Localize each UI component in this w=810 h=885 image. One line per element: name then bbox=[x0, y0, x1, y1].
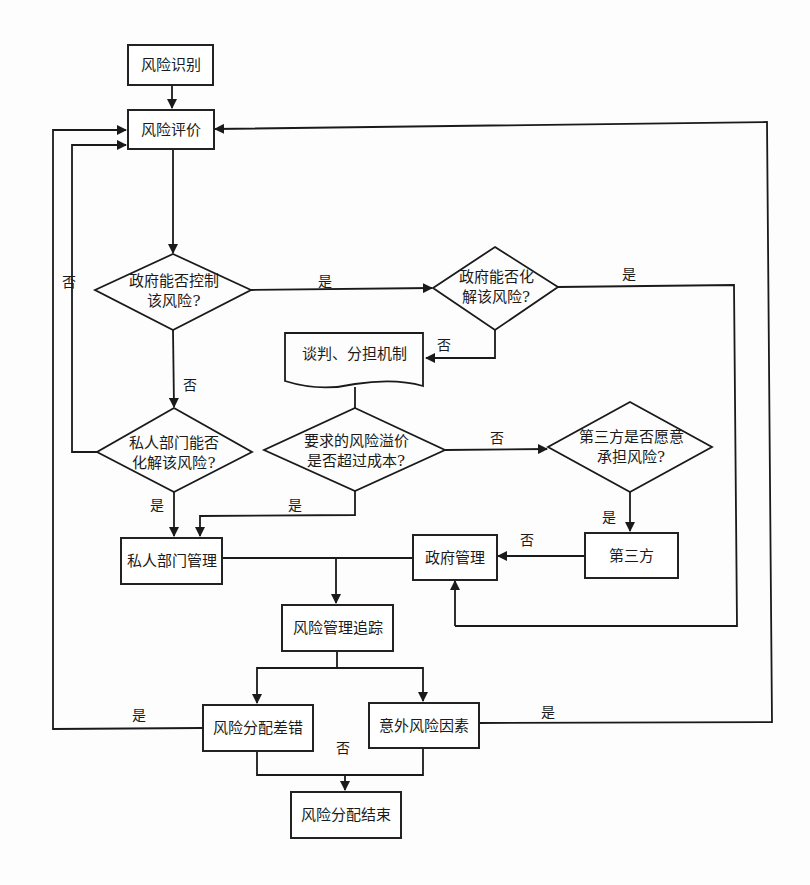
node-label: 风险评价 bbox=[141, 120, 201, 140]
node-label: 第三方 bbox=[609, 546, 654, 566]
edge-label-gov-control-no: 否 bbox=[183, 377, 197, 393]
node-risk-tracking: 风险管理追踪 bbox=[281, 604, 394, 652]
decision-label: 要求的风险溢价 是否超过成本? bbox=[304, 431, 409, 471]
doc-label: 谈判、分担机制 bbox=[302, 344, 407, 364]
node-gov-management: 政府管理 bbox=[412, 534, 498, 581]
decision-label: 政府能否控制 该风险? bbox=[129, 271, 219, 311]
node-private-management: 私人部门管理 bbox=[120, 537, 223, 585]
node-risk-identification: 风险识别 bbox=[127, 44, 214, 86]
edge-label-gov-control-yes: 是 bbox=[318, 273, 332, 289]
edge-label-gov-resolve-yes: 是 bbox=[622, 266, 636, 282]
risk-allocation-flowchart: 风险识别 风险评价 政府能否控制 该风险? 政府能否化 解该风险? 谈判、分担机… bbox=[0, 0, 810, 885]
decision-gov-control: 政府能否控制 该风险? bbox=[110, 270, 238, 312]
node-label: 政府管理 bbox=[425, 548, 485, 568]
doc-negotiation-mechanism: 谈判、分担机制 bbox=[287, 340, 421, 368]
node-unexpected-factors: 意外风险因素 bbox=[368, 702, 480, 749]
node-label: 私人部门管理 bbox=[127, 551, 217, 571]
decision-label: 第三方是否愿意 承担风险? bbox=[579, 427, 684, 467]
decision-gov-resolve: 政府能否化 解该风险? bbox=[447, 266, 545, 308]
edge-label-private-resolve-yes: 是 bbox=[150, 497, 164, 513]
node-allocation-error: 风险分配差错 bbox=[202, 704, 314, 752]
edge-label-gov-resolve-no: 否 bbox=[437, 337, 451, 353]
decision-private-resolve: 私人部门能否 化解该风险? bbox=[112, 432, 236, 474]
edge-label-allocation-error-yes: 是 bbox=[132, 707, 146, 723]
decision-premium-exceeds-cost: 要求的风险溢价 是否超过成本? bbox=[290, 430, 422, 472]
node-label: 风险分配差错 bbox=[213, 718, 303, 738]
decision-third-party-willing: 第三方是否愿意 承担风险? bbox=[565, 426, 697, 468]
edge-label-third-party-yes: 是 bbox=[602, 509, 616, 525]
node-label: 风险分配结束 bbox=[301, 805, 391, 825]
decision-label: 政府能否化 解该风险? bbox=[459, 267, 534, 307]
node-risk-evaluation: 风险评价 bbox=[127, 109, 215, 150]
edge-label-final-no: 否 bbox=[336, 740, 350, 756]
edge-label-third-party-no: 否 bbox=[520, 532, 534, 548]
node-allocation-end: 风险分配结束 bbox=[290, 791, 402, 839]
node-third-party: 第三方 bbox=[584, 532, 679, 579]
edge-label-unexpected-yes: 是 bbox=[541, 704, 555, 720]
edge-label-premium-no: 否 bbox=[490, 430, 504, 446]
decision-label: 私人部门能否 化解该风险? bbox=[129, 433, 219, 473]
node-label: 风险识别 bbox=[141, 55, 201, 75]
edge-label-premium-yes: 是 bbox=[288, 497, 302, 513]
edge-label-private-resolve-no: 否 bbox=[62, 274, 76, 290]
node-label: 风险管理追踪 bbox=[293, 618, 383, 638]
node-label: 意外风险因素 bbox=[379, 716, 469, 736]
